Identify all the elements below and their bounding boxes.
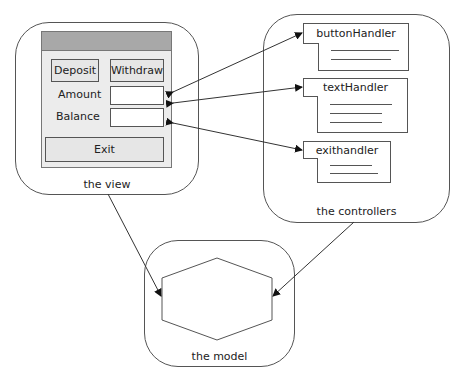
view-group-label: the view: [15, 178, 199, 191]
method-line: [330, 173, 378, 174]
text-handler-class: textHandler: [303, 78, 408, 97]
button-handler-body: [318, 43, 409, 71]
exit-handler-class: exithandler: [303, 141, 391, 159]
method-line: [331, 50, 399, 51]
method-line: [331, 59, 391, 60]
method-line: [330, 122, 382, 123]
withdraw-button[interactable]: Withdraw: [110, 59, 164, 82]
amount-field[interactable]: [110, 86, 164, 105]
exit-handler-body: [317, 158, 391, 183]
text-handler-body: [317, 96, 408, 133]
button-handler-class: buttonHandler: [303, 23, 409, 44]
controllers-group-label: the controllers: [263, 205, 450, 218]
method-line: [330, 113, 382, 114]
amount-label: Amount: [58, 88, 101, 101]
method-line: [330, 104, 392, 105]
model-group-label: the model: [144, 350, 295, 363]
method-line: [330, 165, 372, 166]
balance-field[interactable]: [110, 108, 164, 127]
balance-label: Balance: [56, 110, 100, 123]
exit-button[interactable]: Exit: [45, 137, 164, 162]
deposit-button[interactable]: Deposit: [51, 59, 99, 82]
an-account-label: anAccount: [162, 291, 272, 304]
window-titlebar: [42, 32, 171, 51]
